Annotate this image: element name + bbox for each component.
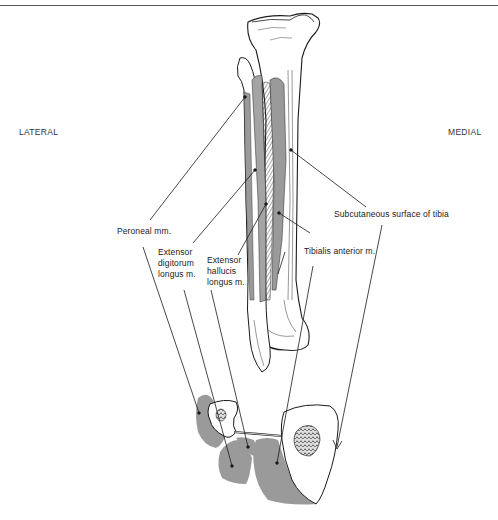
leg-anterior-view [237, 13, 319, 372]
peroneal-label: Peroneal mm. [117, 226, 171, 237]
ext-hallucis-line-3: longus m. [207, 277, 245, 288]
ext-digitorum-label: Extensor digitorum longus m. [158, 247, 196, 280]
ext-digitorum-line-2: digitorum [158, 258, 196, 269]
ext-hallucis-line-2: hallucis [207, 266, 245, 277]
tibialis-anterior-label: Tibialis anterior m. [304, 246, 375, 257]
ext-digitorum-line-3: longus m. [158, 269, 196, 280]
ext-digitorum-line-1: Extensor [158, 247, 196, 258]
subcutaneous-surface-label: Subcutaneous surface of tibia [334, 209, 449, 220]
ext-hallucis-line-1: Extensor [207, 255, 245, 266]
medial-orientation-label: MEDIAL [448, 127, 481, 137]
ext-hallucis-label: Extensor hallucis longus m. [207, 255, 245, 288]
leg-anatomy-diagram [0, 0, 498, 520]
xs-fibula-marrow [216, 409, 226, 421]
lateral-orientation-label: LATERAL [19, 127, 58, 137]
